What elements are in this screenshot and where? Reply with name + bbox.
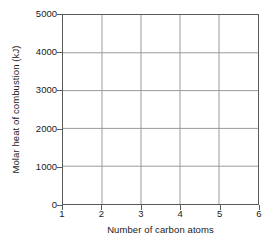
y-tick-label: 5000 bbox=[17, 9, 57, 19]
x-tick-label: 4 bbox=[170, 208, 190, 219]
x-tick-label: 3 bbox=[131, 208, 151, 219]
y-tick-label: 3000 bbox=[17, 85, 57, 95]
y-tick-label: 2000 bbox=[17, 124, 57, 134]
y-tick-label: 1000 bbox=[17, 162, 57, 172]
x-axis-title: Number of carbon atoms bbox=[62, 224, 259, 235]
x-tick-label: 2 bbox=[91, 208, 111, 219]
y-tick-label: 4000 bbox=[17, 47, 57, 57]
x-tick-label: 5 bbox=[210, 208, 230, 219]
y-tick-label: 0 bbox=[17, 200, 57, 210]
x-tick-label: 6 bbox=[249, 208, 269, 219]
grid-lines bbox=[63, 15, 258, 204]
x-tick-label: 1 bbox=[52, 208, 72, 219]
chart-figure: Molar heat of combustion (kJ) 5000 4000 … bbox=[0, 0, 275, 243]
plot-area bbox=[62, 14, 259, 205]
y-axis-title: Molar heat of combustion (kJ) bbox=[9, 14, 23, 205]
